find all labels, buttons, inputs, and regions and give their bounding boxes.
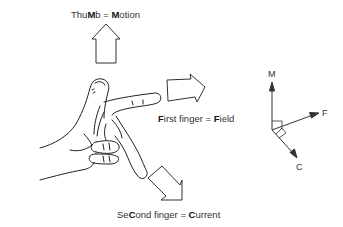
field-arrow-icon: [167, 74, 205, 102]
thumb-motion-label: ThuMb = Motion: [71, 10, 140, 20]
c-axis-label: C: [296, 163, 303, 172]
left-hand-sketch: [40, 79, 161, 180]
motion-arrow-icon: [92, 24, 120, 63]
m-axis-arrowhead-icon: [270, 82, 275, 91]
f-axis-arrowhead-icon: [310, 113, 320, 119]
m-axis-label: M: [268, 70, 276, 79]
fleming-left-hand-rule-diagram: ThuMb = Motion First finger = Field SeCo…: [0, 0, 343, 227]
second-finger-current-label: SeCond finger = Current: [117, 210, 220, 220]
first-finger-field-label: First finger = Field: [158, 114, 234, 124]
coordinate-axes: [270, 82, 320, 158]
f-axis-label: F: [322, 109, 328, 118]
current-arrow-icon: [148, 166, 182, 200]
